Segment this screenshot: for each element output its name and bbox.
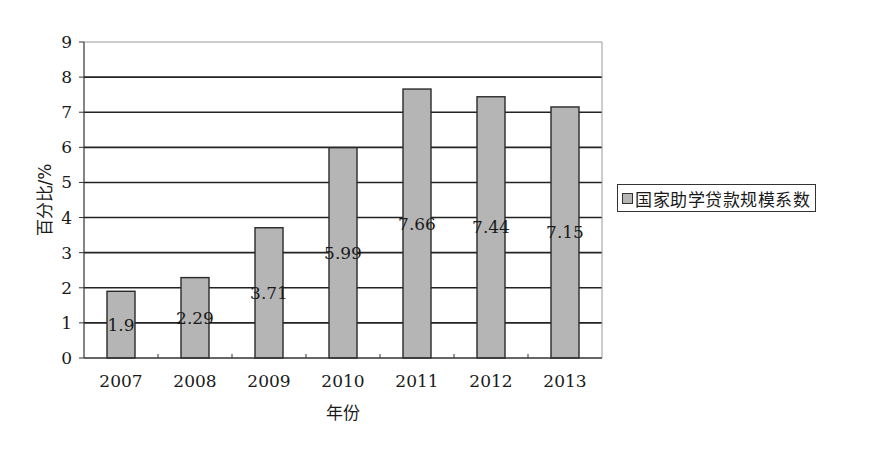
y-tick-label: 1 — [61, 313, 72, 333]
data-label: 3.71 — [250, 283, 288, 303]
data-label: 7.15 — [546, 222, 584, 242]
y-axis-label: 百分比/% — [35, 164, 55, 237]
x-tick-label: 2007 — [99, 371, 142, 391]
data-label: 7.66 — [398, 214, 436, 234]
y-tick-label: 4 — [61, 208, 72, 228]
legend: 国家助学贷款规模系数 — [617, 184, 816, 212]
x-tick-label: 2008 — [173, 371, 216, 391]
y-tick-label: 9 — [61, 32, 72, 52]
y-tick-label: 7 — [61, 102, 72, 122]
y-tick-label: 0 — [61, 348, 72, 368]
x-tick-label: 2010 — [321, 371, 364, 391]
y-tick-label: 5 — [61, 172, 72, 192]
x-tick-label: 2011 — [395, 371, 438, 391]
y-tick-label: 3 — [61, 243, 72, 263]
data-label: 5.99 — [324, 243, 362, 263]
y-tick-label: 2 — [61, 278, 72, 298]
legend-swatch-icon — [622, 193, 633, 204]
y-tick-label: 8 — [61, 67, 72, 87]
x-tick-label: 2009 — [247, 371, 290, 391]
data-label: 1.9 — [107, 315, 134, 335]
y-tick-labels: 0123456789 — [61, 32, 72, 368]
data-label: 2.29 — [176, 308, 214, 328]
y-tick-label: 6 — [61, 137, 72, 157]
legend-label: 国家助学贷款规模系数 — [635, 186, 810, 211]
data-label: 7.44 — [472, 217, 510, 237]
x-tick-label: 2013 — [543, 371, 586, 391]
x-tick-label: 2012 — [469, 371, 512, 391]
bar-chart: 0123456789 2007200820092010201120122013 … — [0, 0, 877, 449]
x-tick-labels: 2007200820092010201120122013 — [99, 371, 586, 391]
x-axis-label: 年份 — [326, 403, 360, 423]
